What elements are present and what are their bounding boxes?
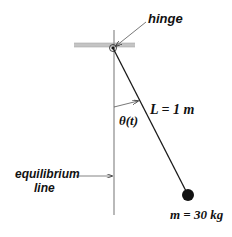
hinge-pointer-arrow xyxy=(116,22,146,46)
mass-label: m = 30 kg xyxy=(170,208,223,221)
angle-arc-arrow xyxy=(114,101,138,107)
length-label: L = 1 m xyxy=(150,103,194,117)
hinge-label: hinge xyxy=(148,12,183,25)
pendulum-bob xyxy=(182,189,194,201)
angle-label: θ(t) xyxy=(119,114,138,127)
equilibrium-label-line1: equilibrium xyxy=(15,168,80,180)
ceiling-bar xyxy=(74,43,135,47)
diagram-graphics xyxy=(0,0,232,237)
pendulum-diagram: hinge L = 1 m θ(t) equilibrium line m = … xyxy=(0,0,232,237)
equilibrium-label-line2: line xyxy=(34,182,55,194)
